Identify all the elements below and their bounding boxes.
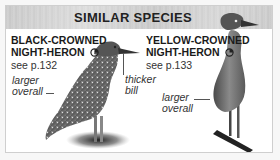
note-line2: bill [125, 85, 156, 96]
leader-line-larger-yellow [194, 99, 210, 100]
species-name-line2: NIGHT-HERON [11, 46, 107, 58]
species-name-black-crowned: BLACK-CROWNED NIGHT-HERON [11, 34, 107, 58]
leader-line-larger-black [46, 93, 54, 94]
page-ref-black-crowned: see p.132 [11, 59, 57, 71]
species-name-line1: BLACK-CROWNED [11, 34, 107, 46]
header-title: SIMILAR SPECIES [74, 10, 192, 25]
leader-line-thicker-bill [123, 53, 124, 75]
partial-circle-icon [225, 48, 234, 57]
note-line2: overall [162, 103, 193, 114]
similar-species-panel: SIMILAR SPECIES [5, 5, 273, 153]
note-larger-overall-black: larger overall [12, 75, 43, 97]
partial-circle-icon [90, 48, 99, 57]
note-larger-overall-yellow: larger overall [162, 92, 193, 114]
species-name-line2: NIGHT-HERON [146, 46, 250, 58]
note-line2: overall [12, 86, 43, 97]
species-name-line2-text: NIGHT-HERON [146, 46, 220, 58]
species-name-yellow-crowned: YELLOW-CROWNED NIGHT-HERON [146, 34, 250, 58]
page-ref-yellow-crowned: see p.133 [146, 59, 192, 71]
species-name-line1: YELLOW-CROWNED [146, 34, 250, 46]
species-name-line2-text: NIGHT-HERON [11, 46, 85, 58]
note-thicker-bill: thicker bill [125, 74, 156, 96]
